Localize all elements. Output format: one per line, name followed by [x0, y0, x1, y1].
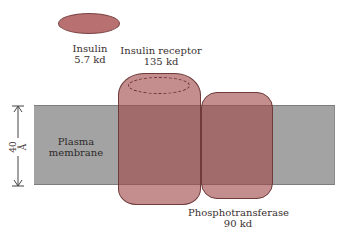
phosphotransferase-size: 90 kd	[188, 218, 288, 229]
insulin-name: Insulin	[60, 43, 120, 54]
scale-label: 40 Å	[8, 138, 28, 156]
receptor-binding-site	[128, 77, 190, 94]
receptor-name: Insulin receptor	[115, 45, 207, 56]
phosphotransferase-shape	[201, 92, 273, 199]
receptor-size: 135 kd	[115, 56, 207, 67]
membrane-line2: membrane	[40, 147, 112, 158]
insulin-shape	[58, 13, 120, 34]
phosphotransferase-label: Phosphotransferase 90 kd	[188, 207, 288, 229]
membrane-line1: Plasma	[40, 136, 112, 147]
insulin-size: 5.7 kd	[60, 54, 120, 65]
membrane-label: Plasma membrane	[40, 136, 112, 158]
phosphotransferase-name: Phosphotransferase	[188, 207, 288, 218]
receptor-label: Insulin receptor 135 kd	[115, 45, 207, 67]
insulin-label: Insulin 5.7 kd	[60, 43, 120, 65]
